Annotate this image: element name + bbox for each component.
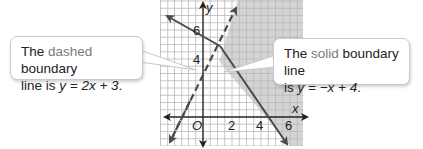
- callout-solid-line: The solid boundary line is y = −x + 4.: [273, 38, 410, 85]
- equation: y = 2x + 3: [59, 78, 118, 93]
- y-tick-label: 4: [193, 52, 200, 67]
- x-tick-label: 2: [228, 118, 235, 133]
- y-axis-label: y: [205, 0, 214, 15]
- callout-line-1: The dashed boundary: [21, 43, 132, 77]
- callout-line-1: The solid boundary line: [284, 45, 399, 79]
- highlight-word: solid: [311, 46, 339, 61]
- origin-label: O: [192, 118, 202, 133]
- y-tick-label: 6: [193, 23, 200, 38]
- x-tick-label: 6: [285, 118, 292, 133]
- equation: y = −x + 4: [298, 80, 358, 95]
- x-axis-label: x: [291, 101, 299, 116]
- callout-line-2: line is y = 2x + 3.: [21, 77, 132, 94]
- callout-dashed-line: The dashed boundary line is y = 2x + 3.: [10, 36, 143, 80]
- callout-line-2: is y = −x + 4.: [284, 79, 399, 96]
- dashed-boundary-line: [170, 101, 190, 142]
- x-tick-label: 4: [256, 118, 263, 133]
- highlight-word: dashed: [48, 44, 92, 59]
